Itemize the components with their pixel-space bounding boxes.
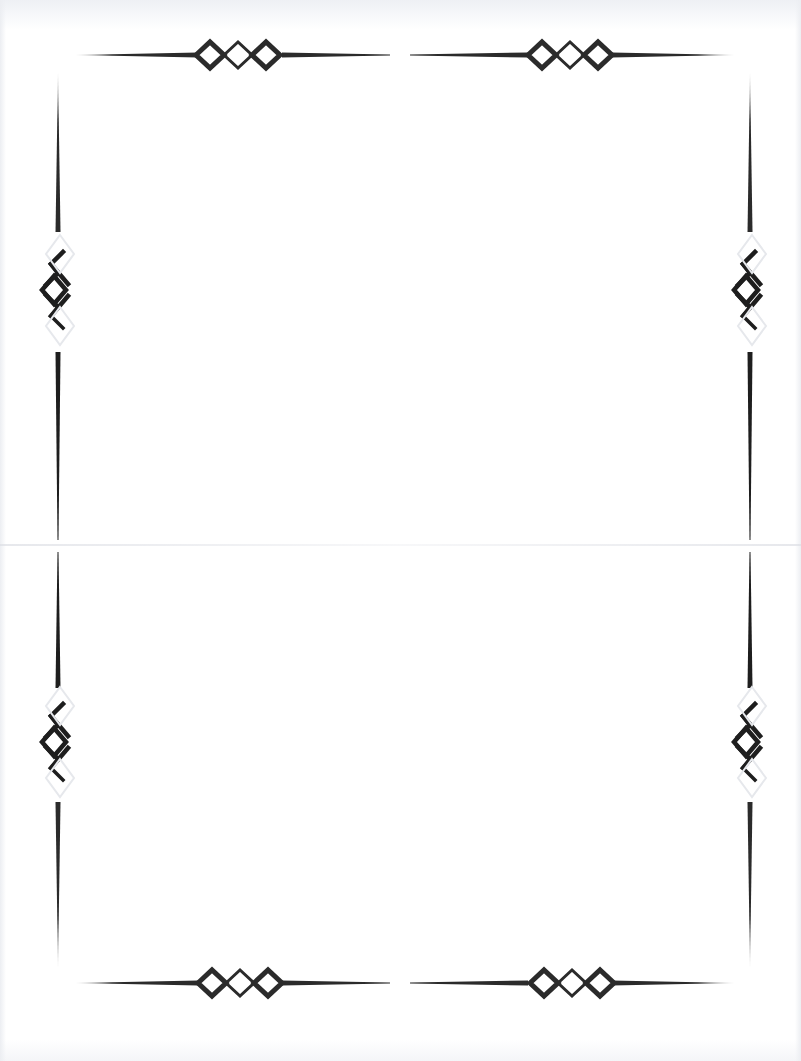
triple-diamond-icon: [198, 970, 282, 996]
left-border: [42, 72, 74, 968]
chain-diamond-icon: [734, 235, 766, 345]
chain-diamond-icon: [734, 687, 766, 797]
page-background: [0, 0, 801, 1061]
bottom-border: [75, 970, 735, 996]
chain-diamond-icon: [42, 687, 74, 797]
triple-diamond-icon: [196, 42, 280, 68]
decorative-border: [0, 0, 801, 1061]
top-border: [75, 42, 735, 68]
right-border: [734, 72, 766, 968]
triple-diamond-icon: [528, 42, 612, 68]
triple-diamond-icon: [530, 970, 614, 996]
chain-diamond-icon: [42, 235, 74, 345]
